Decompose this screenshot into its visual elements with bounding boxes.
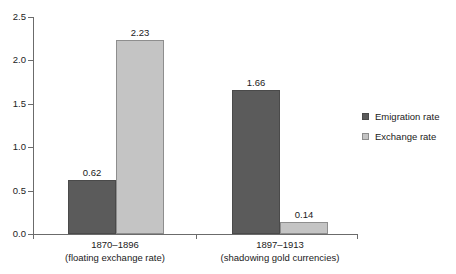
x-axis-tick bbox=[196, 234, 197, 239]
y-axis-tick bbox=[28, 191, 33, 192]
category-name: 1870–1896 bbox=[91, 239, 139, 250]
x-axis-category-label: 1897–1913 (shadowing gold currencies) bbox=[205, 239, 355, 264]
legend-swatch-icon bbox=[362, 113, 369, 120]
y-axis-line bbox=[33, 17, 34, 235]
x-axis-category-label: 1870–1896 (floating exchange rate) bbox=[55, 239, 175, 264]
y-axis-tick-label: 2.5 bbox=[0, 12, 26, 22]
legend-label: Emigration rate bbox=[375, 111, 439, 122]
bar bbox=[68, 180, 116, 234]
chart-legend: Emigration rate Exchange rate bbox=[362, 106, 439, 146]
bar-value-label: 2.23 bbox=[116, 27, 164, 38]
bar-chart: 2.52.01.51.00.50.0 0.622.231.660.14 1870… bbox=[0, 0, 456, 274]
y-axis-tick bbox=[28, 147, 33, 148]
legend-swatch-icon bbox=[362, 133, 369, 140]
category-sublabel: (shadowing gold currencies) bbox=[205, 252, 355, 265]
bar-value-label: 0.62 bbox=[68, 167, 116, 178]
y-axis-tick-label: 1.0 bbox=[0, 142, 26, 152]
y-axis-tick-label: 2.0 bbox=[0, 55, 26, 65]
x-axis-tick bbox=[33, 234, 34, 239]
x-axis-line bbox=[33, 234, 357, 235]
y-axis-tick-label: 0.5 bbox=[0, 186, 26, 196]
bar bbox=[280, 222, 328, 234]
y-axis-tick-label: 0.0 bbox=[0, 229, 26, 239]
bar-value-label: 1.66 bbox=[232, 77, 280, 88]
y-axis-tick bbox=[28, 104, 33, 105]
legend-label: Exchange rate bbox=[375, 131, 436, 142]
y-axis-tick bbox=[28, 17, 33, 18]
category-name: 1897–1913 bbox=[256, 239, 304, 250]
bar bbox=[232, 90, 280, 234]
x-axis-tick bbox=[357, 234, 358, 239]
legend-item-emigration-rate: Emigration rate bbox=[362, 106, 439, 126]
y-axis-tick-label: 1.5 bbox=[0, 99, 26, 109]
legend-item-exchange-rate: Exchange rate bbox=[362, 126, 439, 146]
category-sublabel: (floating exchange rate) bbox=[55, 252, 175, 265]
bar-value-label: 0.14 bbox=[280, 209, 328, 220]
bar bbox=[116, 40, 164, 234]
y-axis-tick bbox=[28, 60, 33, 61]
